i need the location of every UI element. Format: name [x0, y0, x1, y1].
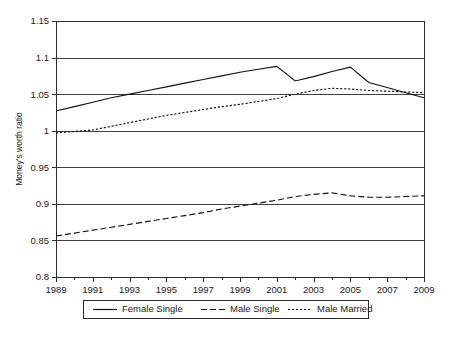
- plot-area-border: [57, 22, 425, 278]
- x-tick-label-1991: 1991: [82, 284, 103, 295]
- plot-frame: [57, 22, 425, 278]
- x-tick-label-1989: 1989: [45, 284, 66, 295]
- y-tick-label-1.1: 1.1: [36, 52, 49, 63]
- y-tick-label-1: 1: [44, 125, 49, 136]
- chart-legend: Female SingleMale SingleMale Married: [84, 301, 373, 319]
- legend-label-male-single: Male Single: [230, 303, 280, 314]
- y-axis-title: Money's worth ratio: [14, 112, 24, 186]
- x-tick-label-1999: 1999: [229, 284, 250, 295]
- y-tick-label-0.9: 0.9: [36, 198, 49, 209]
- chart-container: 0.80.850.90.9511.051.11.15 1989199119931…: [0, 0, 450, 337]
- y-tick-label-1.15: 1.15: [31, 15, 50, 26]
- series-line-female-single: [56, 66, 424, 111]
- y-axis-tick-labels: 0.80.850.90.9511.051.11.15: [31, 15, 50, 282]
- money-worth-ratio-line-chart: 0.80.850.90.9511.051.11.15 1989199119931…: [0, 0, 450, 337]
- x-tick-label-2003: 2003: [303, 284, 324, 295]
- x-tick-label-1995: 1995: [156, 284, 177, 295]
- x-tick-label-2009: 2009: [413, 284, 434, 295]
- series-line-male-single: [56, 193, 424, 236]
- data-series-group: [56, 66, 424, 236]
- y-tick-label-0.8: 0.8: [36, 271, 49, 282]
- y-tick-label-0.95: 0.95: [31, 162, 50, 173]
- x-tick-label-2005: 2005: [340, 284, 361, 295]
- x-tick-label-2007: 2007: [377, 284, 398, 295]
- legend-label-male-married: Male Married: [317, 303, 372, 314]
- x-tick-label-2001: 2001: [266, 284, 287, 295]
- legend-label-female-single: Female Single: [122, 303, 183, 314]
- y-tick-label-0.85: 0.85: [31, 235, 50, 246]
- x-tick-label-1997: 1997: [193, 284, 214, 295]
- plot-gridlines: [56, 22, 424, 278]
- y-axis-title-label: Money's worth ratio: [14, 112, 24, 186]
- y-tick-label-1.05: 1.05: [31, 89, 50, 100]
- x-axis-tick-labels: 1989199119931995199719992001200320052007…: [45, 284, 434, 295]
- x-axis-ticks: [52, 22, 425, 283]
- x-tick-label-1993: 1993: [119, 284, 140, 295]
